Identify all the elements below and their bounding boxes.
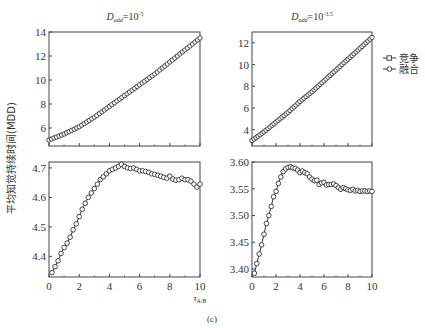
y-tick-label: 3.55 (230, 183, 250, 195)
y-tick-label: 12 (238, 37, 249, 49)
x-tick-label: 10 (367, 280, 379, 292)
data-point-marker (257, 252, 262, 257)
data-point-marker (252, 271, 257, 276)
legend-circle-marker-icon (387, 67, 392, 72)
panel-title-right: Dadd=10-3.5 (290, 11, 332, 23)
x-tick-label: 0 (249, 280, 255, 292)
data-point-marker (198, 182, 203, 187)
data-point-marker (71, 228, 76, 233)
x-tick-label: 6 (137, 280, 143, 292)
x-axis-title: τA/B (193, 293, 206, 304)
y-tick-label: 6 (244, 102, 250, 114)
legend-square-marker-icon (387, 56, 391, 60)
y-tick-label: 3.45 (230, 236, 250, 248)
panel-top-left: 68101214 (35, 26, 202, 146)
data-point-marker (92, 186, 97, 191)
data-point-marker (264, 221, 269, 226)
data-point-marker (86, 195, 91, 200)
y-tick-label: 3.60 (230, 156, 250, 168)
y-tick-label: 12 (35, 50, 46, 62)
data-point-marker (62, 245, 67, 250)
figure-canvas: 68101214468101202468104.44.54.64.7024681… (0, 0, 425, 328)
data-point-marker (95, 182, 100, 187)
x-tick-label: 2 (273, 280, 279, 292)
y-tick-label: 10 (238, 59, 250, 71)
panel-bottom-right: 02468103.403.453.503.553.60 (230, 156, 378, 292)
data-point-marker (370, 189, 375, 194)
panel-top-right: 4681012 (238, 32, 374, 146)
y-tick-label: 4.7 (32, 162, 46, 174)
y-tick-label: 4 (244, 124, 250, 136)
data-point-marker (89, 191, 94, 196)
data-point-marker (259, 243, 264, 248)
y-tick-label: 4.4 (32, 250, 46, 262)
panel-bottom-left: 02468104.44.54.64.7 (32, 162, 206, 292)
data-point-marker (56, 258, 61, 263)
y-tick-label: 8 (41, 98, 47, 110)
figure-caption-text: (c) (207, 314, 217, 324)
data-point-marker (274, 189, 279, 194)
y-axis-title: 平均知觉持续时间(MDD) (5, 102, 17, 214)
x-tick-label: 4 (297, 280, 303, 292)
y-tick-label: 4.6 (32, 191, 46, 203)
data-point-marker (254, 261, 259, 266)
y-tick-label: 4.5 (32, 221, 46, 233)
data-point-marker (276, 181, 281, 186)
x-tick-label: 6 (321, 280, 327, 292)
legend-item-label: 竞争 (399, 52, 419, 64)
data-point-marker (59, 251, 64, 256)
data-point-marker (267, 213, 272, 218)
legend: 竞争融合 (383, 52, 419, 75)
data-point-marker (50, 270, 55, 275)
data-point-marker (370, 35, 374, 39)
data-point-marker (315, 178, 320, 183)
data-point-marker (83, 201, 88, 206)
x-tick-label: 4 (107, 280, 113, 292)
y-tick-label: 6 (41, 122, 47, 134)
data-point-marker (68, 235, 73, 240)
legend-item-label: 融合 (399, 63, 419, 75)
data-point-marker (279, 175, 284, 180)
y-tick-label: 10 (35, 74, 47, 86)
data-point-marker (77, 214, 82, 219)
y-tick-label: 3.50 (230, 209, 250, 221)
data-point-marker (74, 222, 79, 227)
y-tick-label: 14 (35, 26, 47, 38)
data-point-marker (80, 207, 85, 212)
data-point-marker (271, 194, 276, 199)
panel-title-left: Dadd=10-5 (106, 11, 144, 23)
y-tick-label: 3.40 (230, 263, 250, 275)
data-point-marker (269, 204, 274, 209)
data-point-marker (198, 36, 202, 40)
data-point-marker (53, 264, 58, 269)
x-tick-label: 2 (76, 280, 82, 292)
data-point-marker (65, 241, 70, 246)
data-point-marker (262, 232, 267, 237)
x-tick-label: 8 (167, 280, 173, 292)
x-tick-label: 0 (46, 280, 52, 292)
x-tick-label: 8 (345, 280, 351, 292)
x-tick-label: 10 (195, 280, 207, 292)
y-tick-label: 8 (244, 80, 250, 92)
